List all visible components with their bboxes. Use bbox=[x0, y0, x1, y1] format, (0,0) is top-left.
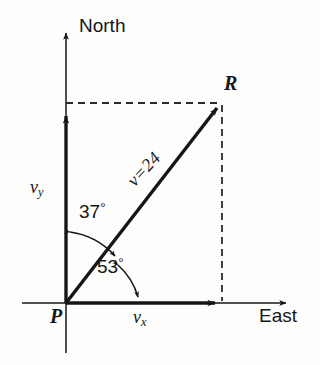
degree-symbol-icon: ° bbox=[118, 255, 123, 270]
angle-label-53-value: 53 bbox=[97, 256, 118, 277]
angle-arc-37 bbox=[70, 232, 115, 256]
vector-label-vy: vy bbox=[30, 178, 43, 199]
degree-symbol-icon: ° bbox=[100, 200, 105, 215]
angle-label-53: 53° bbox=[97, 256, 124, 276]
origin-label-p: P bbox=[50, 306, 62, 326]
angle-label-37-value: 37 bbox=[79, 201, 100, 222]
angle-label-37: 37° bbox=[79, 201, 106, 221]
vector-label-vy-base: v bbox=[30, 177, 38, 197]
vector-label-vx-subscript: x bbox=[141, 315, 146, 329]
vector-label-vx-base: v bbox=[133, 307, 141, 327]
axis-label-north: North bbox=[79, 16, 125, 35]
axis-label-east: East bbox=[259, 306, 297, 325]
vector-label-vy-subscript: y bbox=[38, 185, 43, 199]
resultant-point-label-r: R bbox=[224, 73, 237, 93]
vector-label-vx: vx bbox=[133, 308, 146, 329]
vector-diagram: North East P R vx vy v=24 37° 53° bbox=[0, 0, 320, 365]
